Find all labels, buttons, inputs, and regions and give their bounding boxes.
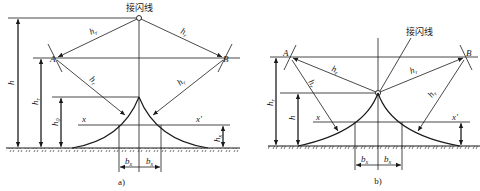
dim-hr-label: hr bbox=[30, 98, 41, 106]
point-a-label: A bbox=[49, 54, 56, 64]
dim-hr-label: hr bbox=[265, 99, 276, 107]
panel-a: 接闪线 A B hr hr hr hr h hr bbox=[6, 2, 240, 187]
dim-hx-label: hx bbox=[212, 135, 223, 143]
ground-hatch bbox=[268, 146, 480, 150]
radius-label-4: hr bbox=[175, 75, 188, 88]
x-label: x bbox=[81, 114, 86, 124]
wire-label-leader bbox=[380, 38, 411, 91]
bx-right-label: bx bbox=[384, 154, 392, 165]
radius-label-3: hr bbox=[306, 77, 319, 89]
radius-label-2: hr bbox=[179, 26, 190, 39]
dim-h-label: h bbox=[287, 115, 297, 120]
x-prime-label: x′ bbox=[195, 114, 203, 124]
wire-label: 接闪线 bbox=[406, 26, 433, 37]
dim-h0-label: h0 bbox=[50, 119, 61, 127]
caption-b: b) bbox=[374, 176, 382, 186]
caption-a: a) bbox=[118, 177, 125, 187]
point-b-label: B bbox=[223, 54, 229, 64]
dim-h-label: h bbox=[6, 80, 16, 85]
point-b-label: B bbox=[466, 48, 472, 58]
bx-left-label: bx bbox=[361, 154, 369, 165]
panel-b: 接闪线 A B hr hr hr hr hr h bbox=[265, 26, 480, 186]
point-a-label: A bbox=[282, 48, 289, 58]
radius-label-1: hr bbox=[88, 25, 99, 38]
bx-right-label: bx bbox=[146, 156, 154, 167]
radius-wire-b bbox=[380, 58, 463, 92]
radius-wire-a bbox=[58, 19, 137, 57]
radius-wire-b bbox=[141, 19, 222, 57]
x-label: x bbox=[315, 112, 320, 122]
x-prime-label: x′ bbox=[451, 112, 459, 122]
radius-label-2: hr bbox=[408, 64, 419, 77]
radius-label-3: hr bbox=[87, 74, 100, 87]
radius-label-1: hr bbox=[330, 63, 341, 76]
protection-curve-right bbox=[378, 93, 460, 146]
protection-curve-left bbox=[298, 93, 378, 146]
lightning-wire-icon bbox=[137, 16, 142, 21]
ground-hatch bbox=[6, 148, 240, 152]
lightning-protection-diagram: 接闪线 A B hr hr hr hr h hr bbox=[0, 0, 480, 191]
radius-a-curve bbox=[57, 60, 125, 115]
bx-left-label: bx bbox=[125, 156, 133, 167]
radius-b-curve bbox=[153, 60, 223, 115]
radius-label-4: hr bbox=[425, 87, 438, 99]
wire-label: 接闪线 bbox=[126, 2, 153, 13]
